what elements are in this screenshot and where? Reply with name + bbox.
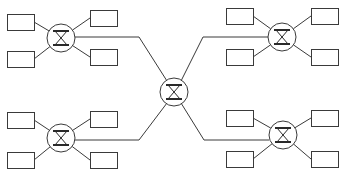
host-link bbox=[34, 120, 49, 130]
host-box bbox=[91, 50, 118, 66]
host-link bbox=[73, 18, 90, 30]
host-box bbox=[312, 9, 339, 25]
host-link bbox=[293, 16, 311, 29]
host-box bbox=[227, 9, 254, 25]
host-link bbox=[34, 47, 50, 59]
trunk-link bbox=[181, 37, 268, 81]
trunk-link bbox=[75, 37, 167, 81]
host-link bbox=[34, 147, 50, 160]
host-link bbox=[253, 16, 271, 29]
trunk-link bbox=[75, 103, 167, 140]
host-box bbox=[227, 152, 254, 168]
host-link bbox=[253, 118, 271, 128]
host-link bbox=[34, 22, 49, 31]
host-box bbox=[227, 50, 254, 66]
trunk-link bbox=[181, 103, 269, 140]
network-diagram bbox=[0, 0, 342, 176]
host-link bbox=[253, 144, 272, 159]
host-box bbox=[227, 111, 254, 127]
host-link bbox=[295, 118, 311, 128]
host-box bbox=[312, 50, 339, 66]
host-box bbox=[8, 153, 35, 169]
host-box bbox=[312, 152, 339, 168]
host-link bbox=[73, 46, 90, 57]
host-box bbox=[8, 15, 35, 31]
host-box bbox=[91, 153, 118, 169]
host-box bbox=[8, 113, 35, 129]
host-link bbox=[72, 146, 90, 160]
host-link bbox=[73, 119, 90, 130]
host-box bbox=[312, 111, 339, 127]
host-link bbox=[294, 45, 311, 57]
host-box bbox=[91, 112, 118, 128]
host-box bbox=[8, 52, 35, 68]
host-box bbox=[91, 11, 118, 27]
host-link bbox=[294, 144, 311, 159]
host-link bbox=[253, 45, 270, 57]
